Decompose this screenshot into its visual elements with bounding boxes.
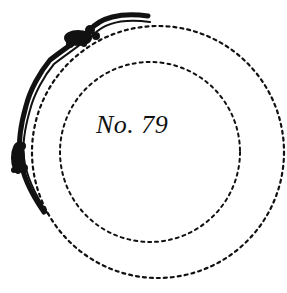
plate-drawing — [0, 0, 287, 293]
foliage-cluster-top — [64, 25, 100, 48]
outer-dotted-ring — [32, 26, 284, 278]
foliage-cluster-left — [11, 142, 28, 174]
inner-dotted-ring — [60, 62, 240, 242]
plate-number-label: No. 79 — [96, 110, 168, 140]
